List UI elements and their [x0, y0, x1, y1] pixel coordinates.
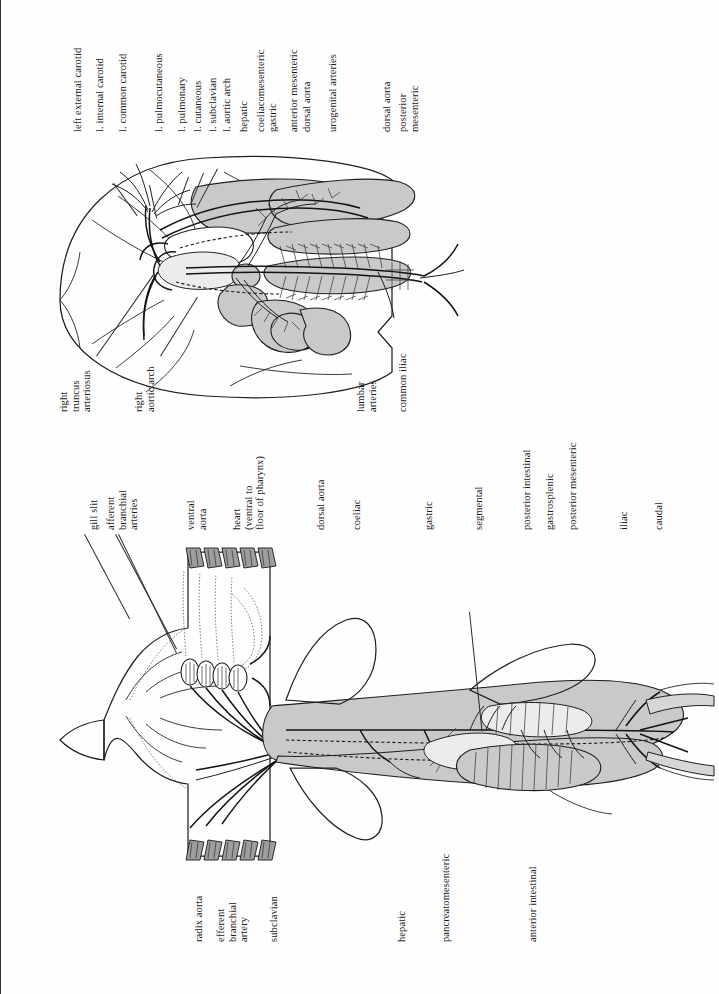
leader-l-internal-carotid: [0, 118, 1, 193]
label-l-aortic-arch: l. aortic arch: [221, 78, 233, 132]
label-posterior-mesenteric-dogfish: posterior mesenteric: [567, 443, 579, 530]
label-l-pulmocutaneous: l. pulmocutaneous: [153, 53, 165, 132]
label-gastrosplenic: gastrosplenic: [544, 473, 556, 530]
label-dorsal-aorta-dogfish: dorsal aorta: [315, 480, 327, 530]
label-gastric-frog: gastric: [267, 103, 279, 132]
label-coeliac: coeliac: [351, 500, 363, 530]
leader-dorsal-aorta-frog: [0, 747, 1, 823]
leader-anterior-mesenteric: [0, 685, 1, 747]
leader-l-subclavian: [0, 397, 1, 435]
leader-l-pulmocutaneous-diag: [149, 185, 157, 218]
label-afferent-branchial-arteries: afferent branchial arteries: [105, 490, 140, 530]
label-segmental: segmental: [473, 487, 485, 530]
label-l-subclavian: l. subclavian: [207, 78, 219, 132]
leader-l-pulmocutaneous: [0, 241, 1, 291]
leader-l-aortic-arch: [0, 435, 1, 469]
label-pancreatomesenteric: pancreatomesenteric: [440, 854, 452, 942]
leader-l-subclavian-diag: [190, 173, 204, 205]
leader-l-common-carotid: [0, 193, 1, 241]
label-caudal: caudal: [653, 502, 665, 530]
label-left-external-carotid: left external carotid: [72, 48, 84, 132]
label-coeliacomesenteric: coeliacomesenteric: [255, 50, 267, 132]
label-ventral-aorta: ventral aorta: [185, 500, 208, 530]
leader-dorsal-aorta-tail: [0, 923, 1, 994]
leader-l-pulmonary: [0, 291, 1, 355]
label-radix-aorta: radix aorta: [193, 896, 205, 942]
label-l-common-carotid: l. common carotid: [117, 54, 129, 132]
leader-l-common-carotid-diag: [113, 183, 137, 216]
label-dorsal-aorta-frog: dorsal aorta: [301, 82, 313, 132]
leader-coeliacomesenteric: [0, 535, 1, 613]
leader-left-external-carotid: [0, 0, 1, 118]
leader-hepatic: [0, 469, 1, 535]
label-hepatic-dogfish: hepatic: [396, 911, 408, 942]
label-subclavian: subclavian: [268, 896, 280, 942]
label-common-iliac: common iliac: [397, 353, 409, 412]
leader-urogenital-arteries: [0, 823, 1, 923]
label-urogenital-arteries: urogenital arteries: [327, 54, 339, 132]
label-iliac: iliac: [618, 511, 630, 530]
label-l-pulmonary: l. pulmonary: [176, 77, 188, 132]
label-heart: heart (ventral to floor of pharynx): [231, 456, 266, 530]
leader-l-cutaneous-diag: [178, 177, 189, 205]
label-lumbar-arteries: lumbar arteries: [355, 380, 378, 412]
label-posterior-intestinal: posterior intestinal: [521, 450, 533, 530]
label-anterior-mesenteric: anterior mesenteric: [288, 49, 300, 132]
label-anterior-intestinal: anterior intestinal: [527, 866, 539, 942]
leader-l-aortic-arch-diag: [197, 169, 218, 208]
label-posterior-mesenteric-frog: posterior mesenteric: [397, 86, 420, 132]
label-right-aortic-arch: right aortic arch: [133, 366, 156, 412]
leader-gastric-frog: [0, 613, 1, 685]
label-gastric-dogfish: gastric: [423, 501, 435, 530]
label-dorsal-aorta-tail: dorsal aorta: [381, 82, 393, 132]
figure-page: left external carotid l. internal caroti…: [0, 0, 719, 994]
label-efferent-branchial-artery: efferent branchial artery: [215, 902, 250, 942]
label-right-truncus-arteriosus: right truncus arteriosus: [58, 370, 93, 412]
label-l-cutaneous: l. cutaneous: [192, 81, 204, 132]
leader-l-cutaneous: [0, 355, 1, 397]
label-gill-slit: gill slit: [88, 500, 100, 530]
label-l-internal-carotid: l. internal carotid: [94, 58, 106, 132]
label-hepatic: hepatic: [238, 101, 250, 132]
